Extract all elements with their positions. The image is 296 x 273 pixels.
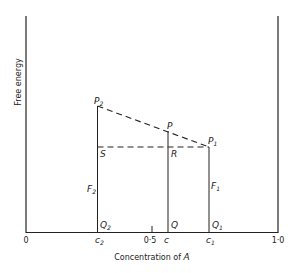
label-P1: P1	[208, 136, 217, 147]
marker-c1: c1	[206, 235, 215, 246]
label-R: R	[171, 149, 177, 159]
tick-1-0: 1·0	[272, 236, 285, 245]
label-P: P	[167, 121, 173, 131]
free-energy-diagram: Free energy P2 P P1 S R F2 F1 Q2 Q Q1 0 …	[0, 0, 296, 273]
label-F1: F1	[211, 181, 220, 192]
tick-0: 0	[23, 236, 28, 245]
label-S: S	[100, 149, 106, 159]
tick-0-5: 0·5	[144, 236, 157, 245]
y-axis-label: Free energy	[14, 58, 23, 106]
marker-c2: c2	[95, 235, 104, 246]
label-Q: Q	[171, 220, 178, 230]
marker-c: c	[164, 235, 169, 245]
label-P2: P2	[94, 96, 103, 107]
label-F2: F2	[87, 184, 96, 195]
tie-line-P2-P1	[98, 106, 210, 147]
label-Q1: Q1	[212, 220, 223, 231]
label-Q2: Q2	[100, 220, 111, 231]
x-axis-label: Concentration of A	[114, 252, 190, 262]
